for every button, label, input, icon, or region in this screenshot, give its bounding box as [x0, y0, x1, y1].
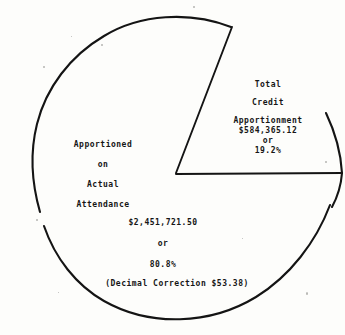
attendance-label-line-4: Attendance [38, 200, 168, 209]
attendance-amount-value: $2,451,721.50 [78, 218, 248, 227]
attendance-percent-value: 80.8% [78, 260, 248, 269]
paper-speck [71, 36, 72, 37]
credit-label-line-2: Credit [212, 98, 324, 107]
attendance-amount-block: $2,451,721.50 or 80.8% [78, 218, 248, 281]
slice-label-total-credit-apportionment: Total Credit Apportionment $584,365.12 o… [212, 80, 324, 155]
credit-percent-value: 19.2% [212, 146, 324, 155]
credit-label-line-1: Total [212, 80, 324, 89]
pie-wedge-radius-horizontal [176, 173, 342, 174]
credit-connector-or: or [212, 136, 324, 145]
attendance-label-line-1: Apportioned [38, 140, 168, 149]
paper-speck [43, 66, 45, 68]
decimal-correction-note: (Decimal Correction $53.38) [62, 279, 292, 288]
paper-speck [193, 6, 195, 8]
credit-amount-value: $584,365.12 [212, 126, 324, 135]
attendance-label-line-3: Actual [38, 180, 168, 189]
attendance-connector-or: or [78, 239, 248, 248]
paper-speck [58, 292, 59, 293]
paper-speck [325, 161, 327, 163]
slice-label-apportioned-actual-attendance: Apportioned on Actual Attendance [38, 140, 168, 220]
attendance-label-line-2: on [38, 160, 168, 169]
credit-label-line-3: Apportionment [212, 116, 324, 125]
paper-speck [306, 292, 308, 295]
pie-arc-credit-lower [332, 173, 342, 207]
pie-chart-figure: Total Credit Apportionment $584,365.12 o… [0, 0, 345, 335]
pie-arc-credit-upper [326, 113, 342, 173]
paper-speck [101, 44, 103, 46]
